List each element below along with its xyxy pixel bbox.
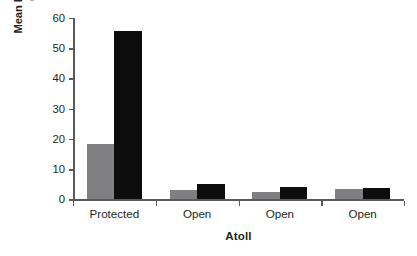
y-axis-tick-mark — [69, 18, 74, 19]
x-axis-category-label: Open — [313, 206, 413, 222]
y-axis-tick-label: 10 — [39, 161, 65, 177]
y-axis-tick-mark — [69, 78, 74, 79]
bar — [114, 31, 142, 199]
bar — [87, 144, 115, 200]
y-axis-tick-mark — [69, 48, 74, 49]
y-axis-title-line2: (nos./200 m2) — [25, 0, 38, 1]
bar — [280, 187, 308, 199]
y-axis-tick-mark — [69, 109, 74, 110]
y-axis-tick-label: 50 — [39, 40, 65, 56]
y-axis-tick-label: 20 — [39, 131, 65, 147]
bar — [252, 192, 280, 200]
y-axis-tick-mark — [69, 139, 74, 140]
bar — [170, 190, 198, 199]
bar — [335, 189, 363, 200]
y-axis-title-line1: Mean holothurian density — [12, 0, 25, 34]
y-axis-tick-label: 30 — [39, 101, 65, 117]
x-axis-title: Atoll — [73, 229, 404, 242]
bar — [197, 184, 225, 200]
y-axis-title-line2-text: (nos./200 m — [25, 0, 37, 1]
y-axis-tick-label: 60 — [39, 10, 65, 26]
y-axis-tick-label: 0 — [39, 191, 65, 207]
bar-chart: Mean holothurian density (nos./200 m2) 6… — [0, 0, 417, 256]
plot-area: 6050403020100 — [73, 18, 404, 201]
y-axis-tick-mark — [69, 169, 74, 170]
y-axis-tick-label: 40 — [39, 70, 65, 86]
y-axis-title: Mean holothurian density (nos./200 m2) — [8, 0, 42, 52]
bar — [363, 188, 391, 199]
